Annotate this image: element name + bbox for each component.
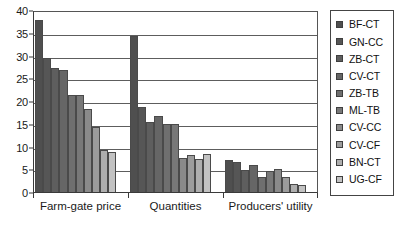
bar[interactable] [187, 155, 195, 192]
x-axis-category-label: Quantities [128, 200, 223, 213]
bar[interactable] [298, 185, 306, 192]
plot-area [33, 11, 318, 193]
y-axis: 4035302520151050 [0, 11, 33, 193]
y-axis-tick-label: 25 [16, 74, 28, 85]
legend-item[interactable]: CV-CT [336, 68, 393, 85]
bar[interactable] [290, 184, 298, 192]
legend-swatch-icon [336, 55, 343, 62]
legend-item-label: CV-CC [349, 122, 381, 133]
bar[interactable] [225, 160, 233, 192]
legend-item-label: ML-TB [349, 105, 380, 116]
legend-item-label: GN-CC [349, 37, 383, 48]
bar-chart: 4035302520151050 Farm-gate priceQuantiti… [0, 0, 397, 230]
bars-layer [34, 12, 317, 192]
legend-item-label: CV-CT [349, 71, 380, 82]
x-axis: Farm-gate priceQuantitiesProducers' util… [33, 193, 318, 223]
legend-swatch-icon [336, 38, 343, 45]
legend-swatch-icon [336, 124, 343, 131]
bar[interactable] [282, 177, 290, 192]
bar[interactable] [138, 107, 146, 192]
legend-swatch-icon [336, 73, 343, 80]
legend-swatch-icon [336, 159, 343, 166]
bar[interactable] [163, 124, 171, 192]
bar[interactable] [59, 70, 67, 192]
x-axis-category-label: Producers' utility [223, 200, 318, 213]
bar[interactable] [130, 36, 138, 192]
bar[interactable] [100, 150, 108, 192]
bar[interactable] [35, 20, 43, 192]
x-axis-tick-mark [128, 193, 129, 198]
x-axis-tick-mark [223, 193, 224, 198]
y-axis-tick-label: 0 [22, 188, 28, 199]
legend-item-label: CV-CF [349, 140, 380, 151]
bar[interactable] [195, 159, 203, 192]
bar[interactable] [249, 165, 257, 192]
bar[interactable] [76, 95, 84, 192]
legend-item[interactable]: ML-TB [336, 102, 393, 119]
legend-item-label: BN-CT [349, 157, 381, 168]
legend-swatch-icon [336, 90, 343, 97]
legend-item-label: BF-CT [349, 19, 379, 30]
legend-item[interactable]: CV-CF [336, 136, 393, 153]
bar[interactable] [84, 109, 92, 192]
bar[interactable] [179, 158, 187, 192]
legend-item[interactable]: GN-CC [336, 33, 393, 50]
x-axis-tick-mark [317, 193, 318, 198]
y-axis-tick-label: 15 [16, 119, 28, 130]
bar[interactable] [241, 170, 249, 192]
bar[interactable] [146, 122, 154, 192]
legend-item[interactable]: UG-CF [336, 171, 393, 188]
legend-item[interactable]: BN-CT [336, 154, 393, 171]
y-axis-tick-label: 35 [16, 28, 28, 39]
bar[interactable] [92, 127, 100, 192]
bar[interactable] [233, 162, 241, 192]
bar[interactable] [108, 152, 116, 192]
bar[interactable] [68, 95, 76, 192]
x-axis-tick-mark [33, 193, 34, 198]
legend-item[interactable]: CV-CC [336, 119, 393, 136]
legend-item[interactable]: ZB-CT [336, 50, 393, 67]
bar[interactable] [171, 124, 179, 192]
legend-swatch-icon [336, 107, 343, 114]
y-axis-tick-label: 30 [16, 51, 28, 62]
bar[interactable] [258, 177, 266, 192]
y-axis-tick-label: 40 [16, 6, 28, 17]
legend-swatch-icon [336, 176, 343, 183]
y-axis-tick-label: 5 [22, 165, 28, 176]
legend-item[interactable]: BF-CT [336, 16, 393, 33]
bar[interactable] [266, 171, 274, 192]
x-axis-category-label: Farm-gate price [33, 200, 128, 213]
bar-group [35, 12, 116, 192]
bar-group [130, 12, 211, 192]
bar[interactable] [154, 116, 162, 192]
bar[interactable] [203, 154, 211, 192]
bar[interactable] [51, 68, 59, 192]
chart-legend: BF-CTGN-CCZB-CTCV-CTZB-TBML-TBCV-CCCV-CF… [330, 10, 394, 196]
legend-swatch-icon [336, 141, 343, 148]
legend-item-label: ZB-TB [349, 88, 379, 99]
bar-group [225, 12, 306, 192]
legend-item-label: UG-CF [349, 174, 382, 185]
legend-item[interactable]: ZB-TB [336, 85, 393, 102]
legend-swatch-icon [336, 21, 343, 28]
legend-item-label: ZB-CT [349, 54, 379, 65]
y-axis-tick-label: 10 [16, 142, 28, 153]
bar[interactable] [43, 58, 51, 192]
bar[interactable] [274, 169, 282, 192]
y-axis-tick-label: 20 [16, 97, 28, 108]
